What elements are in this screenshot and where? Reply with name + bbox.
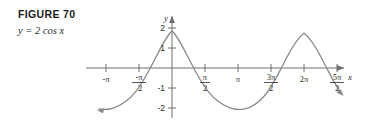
y-tick-label-1: 1 xyxy=(160,43,165,53)
svg-text:2: 2 xyxy=(203,83,207,93)
y-tick-label-2: 2 xyxy=(160,23,165,33)
x-tick-label-pi-over-2: π 2 xyxy=(200,72,210,93)
x-tick-label-pi: π xyxy=(236,74,241,84)
svg-text:π: π xyxy=(203,72,208,82)
x-tick-label-3pi-over-2: 3π 2 xyxy=(264,72,278,93)
y-tick-label-neg-2: -2 xyxy=(157,103,165,113)
x-tick-label-neg-pi: -π xyxy=(102,74,110,84)
x-axis-name-label: x xyxy=(347,72,352,82)
svg-text:3π: 3π xyxy=(267,72,276,82)
figure-container: FIGURE 70 y = 2 cos x xyxy=(0,0,372,127)
plot-area: -π -π 2 π 2 π 3π 2 2π 5π 2 xyxy=(0,0,372,127)
cosine-curve xyxy=(99,31,342,110)
x-tick-label-5pi-over-2: 5π 2 xyxy=(330,72,344,93)
svg-text:-π: -π xyxy=(135,72,143,82)
x-axis-arrow-icon xyxy=(337,65,344,71)
y-axis-name-label: y xyxy=(163,13,168,23)
y-axis-arrow-icon xyxy=(169,16,175,23)
x-tick-label-neg-pi-over-2: -π 2 xyxy=(132,72,146,93)
cosine-plot-svg: -π -π 2 π 2 π 3π 2 2π 5π 2 xyxy=(0,0,372,127)
svg-text:2: 2 xyxy=(269,83,273,93)
y-tick-label-neg-1: -1 xyxy=(157,83,165,93)
svg-text:5π: 5π xyxy=(333,72,342,82)
svg-text:2: 2 xyxy=(335,83,339,93)
x-tick-label-2pi: 2π xyxy=(300,74,309,84)
svg-text:2: 2 xyxy=(138,83,142,93)
